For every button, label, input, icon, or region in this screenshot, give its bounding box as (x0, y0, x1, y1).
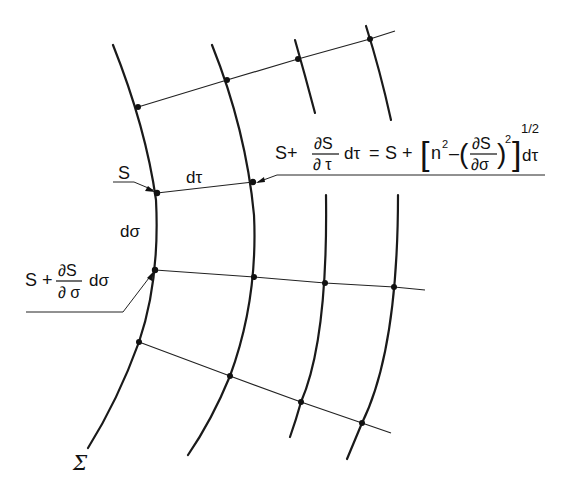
node (367, 36, 373, 42)
ray-line-lower (139, 342, 391, 433)
wavefront-curve-3-upper (295, 40, 315, 113)
n-exponent: 2 (442, 138, 448, 150)
ray-line-d-tau (157, 182, 253, 193)
node-S-plus-dtau (250, 179, 256, 185)
node (135, 104, 141, 110)
node (295, 56, 301, 62)
wavefront-curve-2 (188, 45, 255, 455)
node (298, 399, 304, 405)
rhs-suffix: dτ (522, 146, 538, 165)
bracket-close: ] (512, 134, 521, 172)
node (359, 420, 365, 426)
arrowhead-icon (256, 177, 265, 183)
paren-open: ( (459, 138, 469, 169)
d-tau-label: dτ (186, 168, 202, 187)
wavefront-curve-3-lower (290, 195, 326, 437)
minus-sign: – (449, 143, 459, 163)
wavefront-curve-4-lower (347, 195, 398, 459)
outer-exponent: 1/2 (521, 121, 539, 136)
grid-nodes (135, 36, 397, 426)
inner-numerator: ∂S (472, 135, 491, 152)
lhs-prefix: S+ (275, 143, 298, 163)
rhs-prefix: S + (385, 143, 413, 163)
node-S (154, 190, 160, 196)
node (224, 77, 230, 83)
inner-exponent: 2 (505, 133, 511, 145)
point-S-label: S (118, 163, 130, 183)
formula-suffix: dσ (89, 271, 109, 290)
ray-lines (138, 31, 425, 433)
d-sigma-label: dσ (120, 222, 140, 241)
ray-line-top (138, 31, 395, 107)
sigma-surface-label: Σ (72, 451, 88, 475)
formula-prefix: S + (25, 270, 53, 290)
wavefront-curves (88, 26, 398, 459)
lhs-suffix: dτ (344, 144, 360, 163)
lower-left-formula: S + ∂S ∂ σ dσ (25, 262, 109, 301)
node (136, 339, 142, 345)
inner-denominator: ∂σ (471, 156, 489, 173)
equals-sign: = (369, 143, 380, 163)
wavefront-curve-sigma (88, 45, 157, 448)
lhs-numerator: ∂S (314, 135, 333, 152)
ray-line-middle (155, 270, 425, 290)
node (227, 373, 233, 379)
right-formula: S+ ∂S ∂ τ dτ = S + [ n 2 – ( ∂S ∂σ ) 2 ]… (275, 121, 539, 173)
formula-denominator: ∂ σ (58, 284, 80, 301)
node (251, 274, 257, 280)
bracket-open: [ (420, 134, 430, 172)
node (322, 280, 328, 286)
node (391, 284, 397, 290)
leader-lines (26, 175, 545, 312)
formula-numerator: ∂S (58, 262, 77, 279)
leader-right-formula (258, 175, 545, 182)
n-variable: n (431, 143, 441, 163)
lhs-denominator: ∂ τ (313, 156, 332, 173)
wavefront-grid-diagram: Σ S dτ dσ S + ∂S ∂ σ dσ S+ ∂S ∂ τ dτ = S… (0, 0, 567, 485)
